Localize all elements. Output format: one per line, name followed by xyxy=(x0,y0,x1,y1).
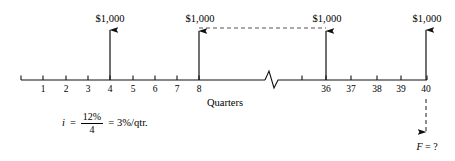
tick-label-38: 38 xyxy=(372,85,382,95)
tick-label-40: 40 xyxy=(421,85,431,95)
interest-rate-formula: i = 12% 4 = 3%/qtr. xyxy=(62,112,148,135)
timeline-graphic xyxy=(0,0,455,161)
amount-label-q40: $1,000 xyxy=(413,14,442,25)
axis-title: Quarters xyxy=(207,98,243,109)
tick-label-6: 6 xyxy=(153,85,158,95)
interest-denominator: 4 xyxy=(90,124,95,135)
tick-label-1: 1 xyxy=(41,85,46,95)
tick-label-37: 37 xyxy=(346,85,356,95)
interest-symbol: i xyxy=(62,118,65,129)
tick-marks xyxy=(43,76,401,81)
tick-label-36: 36 xyxy=(321,85,331,95)
interest-equals: = xyxy=(70,118,76,129)
tick-label-39: 39 xyxy=(396,85,406,95)
tick-label-4: 4 xyxy=(108,85,113,95)
interest-equals-2: = xyxy=(108,118,114,129)
timeline-axis xyxy=(21,71,427,88)
tick-label-8: 8 xyxy=(197,85,202,95)
interest-fraction: 12% 4 xyxy=(81,112,103,135)
interest-result: 3%/qtr. xyxy=(117,118,148,129)
axis-break-icon xyxy=(265,71,280,88)
tick-label-2: 2 xyxy=(64,85,69,95)
amount-label-q36: $1,000 xyxy=(313,14,342,25)
tick-label-7: 7 xyxy=(175,85,180,95)
cash-flow-diagram: 1 2 3 4 5 6 7 8 36 37 38 39 40 $1,000 $1… xyxy=(0,0,455,161)
tick-label-5: 5 xyxy=(131,85,136,95)
interest-numerator: 12% xyxy=(81,112,103,124)
future-value-question: = ? xyxy=(423,141,438,152)
tick-label-3: 3 xyxy=(86,85,91,95)
amount-label-q8: $1,000 xyxy=(186,14,215,25)
future-value-label: F = ? xyxy=(416,142,437,152)
amount-label-q4: $1,000 xyxy=(96,14,125,25)
